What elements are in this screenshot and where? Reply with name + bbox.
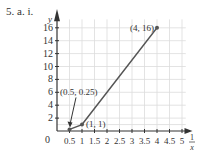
x-tick-label: 0.5 bbox=[64, 136, 76, 146]
data-point bbox=[68, 127, 72, 131]
problem-label: 5. a. i. bbox=[6, 5, 33, 17]
series-line bbox=[70, 28, 158, 130]
x-tick-label: 3.5 bbox=[139, 136, 151, 146]
origin-label: 0 bbox=[45, 134, 50, 145]
x-axis-label-num: 1 bbox=[190, 133, 194, 142]
annotation-label: (4, 16) bbox=[130, 23, 154, 33]
annotation-label: (0.5, 0.25) bbox=[60, 87, 98, 97]
x-tick-label: 2.5 bbox=[114, 136, 126, 146]
x-tick-label: 4 bbox=[155, 136, 160, 146]
x-tick-label: 4.5 bbox=[164, 136, 176, 146]
y-tick-label: 12 bbox=[43, 48, 53, 59]
y-tick-label: 8 bbox=[48, 73, 53, 84]
annotation-label: (1, 1) bbox=[86, 119, 106, 129]
data-point bbox=[155, 26, 159, 30]
y-tick-label: 2 bbox=[48, 112, 53, 123]
y-axis-label: y bbox=[47, 14, 52, 24]
grid bbox=[57, 19, 186, 131]
x-axis-label-den: x bbox=[189, 143, 194, 152]
x-tick-label: 1 bbox=[80, 136, 85, 146]
data-point bbox=[80, 123, 84, 127]
x-tick-label: 3 bbox=[130, 136, 135, 146]
x-tick-label: 2 bbox=[105, 136, 110, 146]
y-tick-label: 10 bbox=[43, 61, 53, 72]
x-tick-label: 5 bbox=[180, 136, 185, 146]
x-tick-label: 1.5 bbox=[89, 136, 101, 146]
data-series bbox=[68, 26, 160, 132]
y-tick-label: 6 bbox=[48, 86, 53, 97]
y-tick-label: 14 bbox=[43, 35, 53, 46]
y-tick-label: 4 bbox=[48, 99, 53, 110]
chart: 5. a. i. 0.511.522.533.544.5524681012141… bbox=[0, 0, 204, 159]
